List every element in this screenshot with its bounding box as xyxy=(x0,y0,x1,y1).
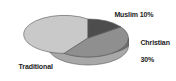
slice-label-muslim: Muslim 10% xyxy=(107,2,153,28)
slice-label-christian-line1: Christian xyxy=(140,39,169,46)
slice-label-traditional-line1: Traditional xyxy=(19,63,53,70)
slice-label-christian-line2: 30% xyxy=(140,56,154,63)
slice-label-traditional: Traditional beliefs 60% xyxy=(6,54,58,80)
slice-label-muslim-text: Muslim 10% xyxy=(114,11,153,18)
pie-chart-figure: Muslim 10% Christian 30% Traditional bel… xyxy=(0,0,176,80)
slice-label-christian: Christian 30% xyxy=(133,30,170,73)
slice-label-traditional-line2: beliefs 60% xyxy=(17,80,54,81)
